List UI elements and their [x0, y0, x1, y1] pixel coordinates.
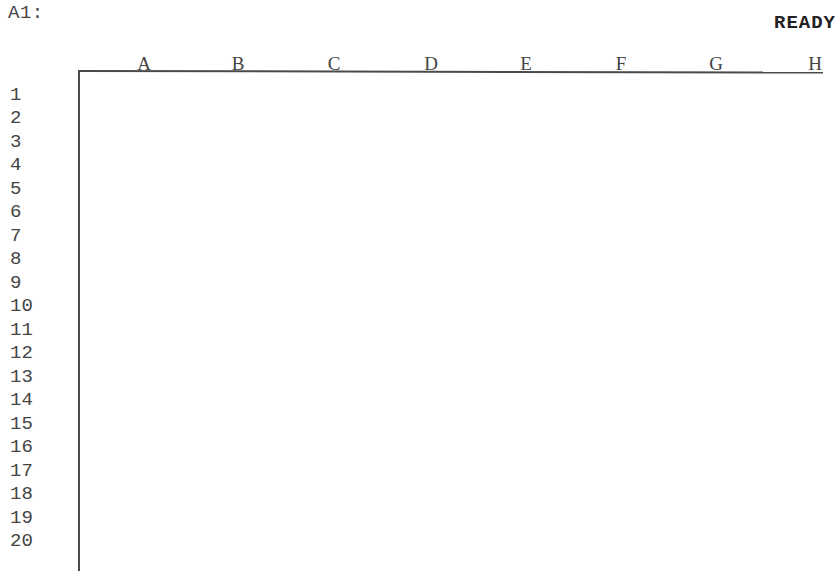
row-header-15[interactable]: 15 [10, 415, 33, 434]
row-header-19[interactable]: 19 [10, 509, 33, 528]
row-header-14[interactable]: 14 [10, 391, 33, 410]
column-header-g[interactable]: G [709, 54, 723, 73]
row-header-12[interactable]: 12 [10, 344, 33, 363]
spreadsheet-grid: A B C D E F G H 1 2 3 4 5 6 7 8 9 10 11 … [0, 0, 839, 580]
row-header-6[interactable]: 6 [10, 203, 21, 222]
column-header-a[interactable]: A [137, 54, 151, 73]
row-header-11[interactable]: 11 [10, 321, 33, 340]
row-header-5[interactable]: 5 [10, 180, 21, 199]
row-header-16[interactable]: 16 [10, 438, 33, 457]
column-header-b[interactable]: B [232, 54, 245, 73]
row-header-9[interactable]: 9 [10, 274, 21, 293]
row-header-3[interactable]: 3 [10, 133, 21, 152]
row-header-4[interactable]: 4 [10, 156, 21, 175]
row-header-8[interactable]: 8 [10, 250, 21, 269]
row-header-7[interactable]: 7 [10, 227, 21, 246]
row-header-20[interactable]: 20 [10, 532, 33, 551]
row-header-10[interactable]: 10 [10, 297, 33, 316]
worksheet-cells[interactable] [80, 72, 823, 571]
column-header-e[interactable]: E [520, 54, 532, 73]
row-header-18[interactable]: 18 [10, 485, 33, 504]
column-header-f[interactable]: F [616, 54, 627, 73]
column-header-d[interactable]: D [424, 54, 438, 73]
column-header-c[interactable]: C [328, 54, 341, 73]
row-header-2[interactable]: 2 [10, 109, 21, 128]
row-header-1[interactable]: 1 [10, 86, 21, 105]
row-header-17[interactable]: 17 [10, 462, 33, 481]
row-header-13[interactable]: 13 [10, 368, 33, 387]
column-header-h[interactable]: H [808, 54, 822, 73]
